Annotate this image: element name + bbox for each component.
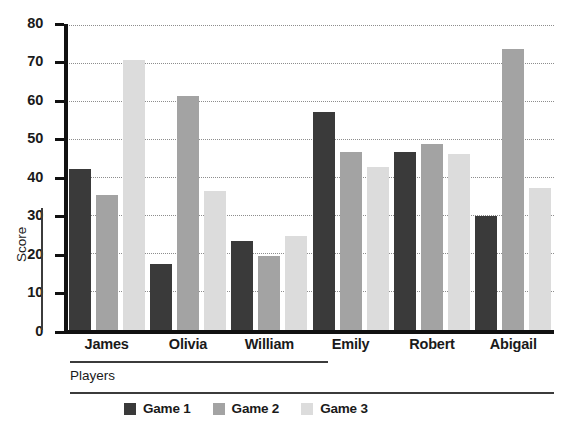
bar-group	[66, 26, 147, 330]
y-axis-tick-label: 80	[27, 15, 43, 31]
bar-slot	[66, 26, 93, 330]
x-axis-title: Players	[70, 368, 115, 383]
y-axis-tick-label: 70	[27, 53, 43, 69]
y-axis-title-rule	[41, 208, 43, 330]
y-axis-tick-label: 60	[27, 92, 43, 108]
bar-slot	[418, 26, 445, 330]
bar-slot	[446, 26, 473, 330]
legend-rule	[70, 392, 554, 394]
y-axis-tick: 70	[55, 61, 64, 64]
bar[interactable]	[204, 191, 226, 330]
y-axis-tick: 80	[55, 23, 64, 26]
y-axis-tick-label: 40	[27, 169, 43, 185]
bar-slot	[147, 26, 174, 330]
legend-label: Game 2	[232, 401, 280, 416]
x-axis-tick-label: Emily	[310, 336, 391, 352]
bar[interactable]	[69, 169, 91, 331]
legend-label: Game 1	[143, 401, 191, 416]
bar-group	[147, 26, 228, 330]
y-axis-tick: 40	[55, 177, 64, 180]
x-axis-title-rule	[70, 361, 328, 363]
y-axis-tick: 60	[55, 100, 64, 103]
x-axis-tick-label: Robert	[391, 336, 472, 352]
bar[interactable]	[475, 216, 497, 330]
bar-slot	[202, 26, 229, 330]
x-axis-tick-label: James	[66, 336, 147, 352]
bar[interactable]	[421, 144, 443, 330]
bar-slot	[473, 26, 500, 330]
plot-area	[66, 26, 554, 330]
legend: Game 1Game 2Game 3	[124, 401, 368, 416]
y-axis-tick: 50	[55, 138, 64, 141]
bar[interactable]	[285, 236, 307, 330]
bar[interactable]	[448, 154, 470, 330]
bar-slot	[283, 26, 310, 330]
x-axis-tick-label: William	[229, 336, 310, 352]
bar-slot	[174, 26, 201, 330]
legend-swatch	[301, 403, 313, 415]
bar-group	[310, 26, 391, 330]
legend-item[interactable]: Game 2	[213, 401, 280, 416]
y-axis-tick: 0	[55, 331, 64, 334]
bar[interactable]	[96, 195, 118, 330]
y-axis-tick-label: 50	[27, 130, 43, 146]
bar[interactable]	[529, 188, 551, 331]
bar[interactable]	[258, 256, 280, 330]
legend-label: Game 3	[320, 401, 368, 416]
bar[interactable]	[340, 152, 362, 330]
legend-item[interactable]: Game 1	[124, 401, 191, 416]
x-axis-tick-labels: JamesOliviaWilliamEmilyRobertAbigail	[66, 336, 554, 352]
x-axis-tick-label: Abigail	[473, 336, 554, 352]
bar-slot	[391, 26, 418, 330]
bar-slot	[310, 26, 337, 330]
legend-swatch	[213, 403, 225, 415]
bar-group	[229, 26, 310, 330]
y-axis-tick: 30	[55, 215, 64, 218]
legend-item[interactable]: Game 3	[301, 401, 368, 416]
bar-slot	[527, 26, 554, 330]
bar[interactable]	[177, 96, 199, 330]
bar[interactable]	[367, 167, 389, 330]
bar-slot	[120, 26, 147, 330]
legend-swatch	[124, 403, 136, 415]
bar-slot	[364, 26, 391, 330]
y-axis-title: Score	[14, 227, 29, 262]
bar-group	[473, 26, 554, 330]
bar-chart: 01020304050607080 JamesOliviaWilliamEmil…	[0, 0, 583, 439]
bar-slot	[337, 26, 364, 330]
bar[interactable]	[123, 60, 145, 330]
bar[interactable]	[313, 112, 335, 331]
bar-groups	[66, 26, 554, 330]
y-axis-tick: 10	[55, 292, 64, 295]
x-axis-line	[64, 330, 554, 334]
bar-slot	[93, 26, 120, 330]
bar[interactable]	[502, 49, 524, 330]
bar[interactable]	[150, 264, 172, 331]
bar[interactable]	[231, 241, 253, 330]
y-axis-tick: 20	[55, 254, 64, 257]
bar-slot	[229, 26, 256, 330]
y-axis-line: 01020304050607080	[64, 24, 68, 332]
bar-slot	[500, 26, 527, 330]
bar-slot	[256, 26, 283, 330]
x-axis-tick-label: Olivia	[147, 336, 228, 352]
bar-group	[391, 26, 472, 330]
bar[interactable]	[394, 152, 416, 330]
